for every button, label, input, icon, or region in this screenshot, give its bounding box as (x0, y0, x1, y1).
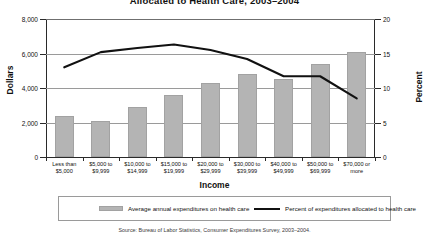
y-axis-right-tick (375, 88, 381, 89)
y-axis-left-labels: 02,0004,0006,0008,000 (0, 0, 38, 238)
x-axis-line (46, 157, 375, 158)
legend-line-label: Percent of expenditures allocated to hea… (285, 205, 416, 212)
bar (347, 52, 366, 157)
chart-source: Source: Bureau of Labor Statistics, Cons… (0, 227, 429, 233)
gridline (46, 54, 375, 55)
bar (201, 83, 220, 157)
y-axis-right-title: Percent (414, 57, 424, 117)
x-axis-title: Income (0, 180, 429, 190)
y-axis-left-tick (40, 123, 46, 124)
x-axis-tick-label: $70,000 ormore (334, 161, 379, 176)
bar (311, 64, 330, 157)
bar (238, 74, 257, 157)
bar (274, 79, 293, 157)
y-axis-left-tick-label: 2,000 (22, 119, 38, 126)
legend-bar-swatch (99, 206, 123, 211)
chart-figure: Allocated to Health Care, 2003–2004 02,0… (0, 0, 429, 238)
bar (164, 95, 183, 157)
y-axis-right-tick-label: 20 (383, 16, 390, 23)
chart-title: Allocated to Health Care, 2003–2004 (0, 0, 429, 6)
legend-bar-label: Average annual expenditures on health ca… (128, 205, 249, 212)
y-axis-left-tick-label: 4,000 (22, 85, 38, 92)
y-axis-right-tick-label: 15 (383, 50, 390, 57)
y-axis-right-tick (375, 123, 381, 124)
y-axis-left-tick (40, 54, 46, 55)
legend-line-swatch (254, 208, 280, 210)
bar (91, 121, 110, 157)
y-axis-left-tick-label: 8,000 (22, 16, 38, 23)
y-axis-left-title: Dollars (5, 50, 15, 110)
y-axis-right-tick-label: 10 (383, 85, 390, 92)
y-axis-left-tick-label: 6,000 (22, 50, 38, 57)
bar (128, 107, 147, 157)
y-axis-left-tick-label: 0 (34, 154, 38, 161)
legend-item-bar: Average annual expenditures on health ca… (99, 205, 249, 212)
y-axis-right-tick (375, 19, 381, 20)
y-axis-left-tick (40, 88, 46, 89)
y-axis-right-tick-label: 0 (383, 154, 387, 161)
gridline (46, 19, 375, 20)
chart-legend: Average annual expenditures on health ca… (58, 196, 391, 221)
y-axis-right-tick-label: 5 (383, 119, 387, 126)
y-axis-right-tick (375, 54, 381, 55)
bar (55, 116, 74, 157)
legend-item-line: Percent of expenditures allocated to hea… (254, 205, 416, 212)
y-axis-left-tick (40, 19, 46, 20)
